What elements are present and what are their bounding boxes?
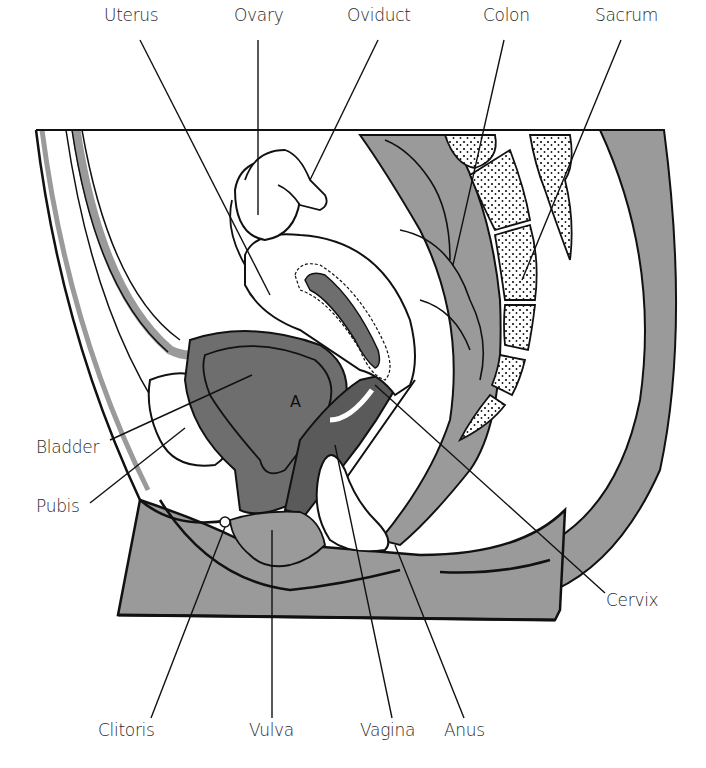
label-pubis: Pubis	[36, 496, 80, 516]
label-ovary: Ovary	[234, 5, 283, 25]
label-oviduct: Oviduct	[347, 5, 411, 25]
label-cervix: Cervix	[606, 590, 658, 610]
label-anus: Anus	[444, 720, 485, 740]
label-uterus: Uterus	[104, 5, 158, 25]
label-sacrum: Sacrum	[595, 5, 658, 25]
label-colon: Colon	[483, 5, 530, 25]
svg-text:A: A	[290, 392, 301, 411]
label-clitoris: Clitoris	[98, 720, 155, 740]
clitoris-shape	[220, 517, 230, 527]
label-vagina: Vagina	[360, 720, 415, 740]
label-vulva: Vulva	[249, 720, 294, 740]
label-bladder: Bladder	[36, 437, 99, 457]
anatomy-diagram: A	[0, 0, 706, 768]
